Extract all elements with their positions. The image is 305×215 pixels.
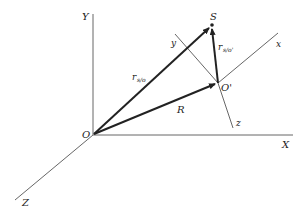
label-S: S <box>210 11 217 22</box>
label-Y: Y <box>82 11 90 22</box>
z-axis-fixed <box>15 135 93 200</box>
label-X: X <box>281 139 290 150</box>
label-R: R <box>176 104 185 115</box>
point-S-dot <box>210 23 214 27</box>
label-z-moving: z <box>235 118 241 128</box>
vector-r-s-o-prime <box>212 29 218 83</box>
vector-r-s-o <box>94 28 209 134</box>
label-x-moving: x <box>276 39 281 49</box>
label-O: O <box>82 129 90 140</box>
vector-R <box>94 84 215 134</box>
diagram-canvas: Y X Z O S O' x y z R r s/o r s/o' <box>0 0 305 215</box>
label-r-s-o-prime-subscript: s/o' <box>223 46 234 53</box>
label-Z: Z <box>21 197 30 208</box>
label-r-s-o: r s/o <box>132 72 146 83</box>
x-axis-moving <box>218 33 278 83</box>
label-r-s-o-subscript: s/o <box>137 76 146 83</box>
y-axis-moving <box>175 34 218 83</box>
label-r-s-o-prime: r s/o' <box>218 42 234 53</box>
label-O-prime: O' <box>221 82 232 93</box>
label-y-moving: y <box>170 38 177 48</box>
